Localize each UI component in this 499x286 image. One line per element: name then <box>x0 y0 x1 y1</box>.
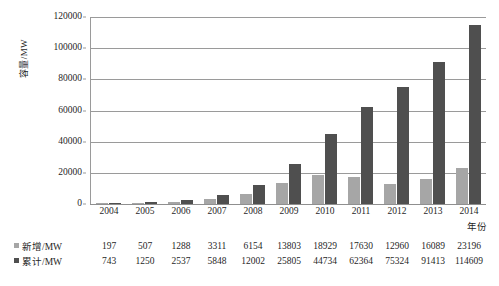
y-axis-tick-labels: 020000400006000080000100000120000 <box>36 17 86 204</box>
table-row: 新增/MW19750712883311615413803189291763012… <box>0 238 499 253</box>
table-row: 累计/MW74312502537584812002258054473462364… <box>0 253 499 268</box>
bar <box>289 164 301 204</box>
y-axis-tick-mark <box>83 141 86 142</box>
legend-label: 累计/MW <box>22 254 62 268</box>
x-axis-tick-label: 2004 <box>91 206 127 216</box>
value-row: 7431250253758481200225805447346236475324… <box>91 256 487 266</box>
x-axis-tick-label: 2008 <box>235 206 271 216</box>
bar <box>325 134 337 204</box>
bar-group <box>271 17 307 204</box>
table-cell: 62364 <box>343 256 379 266</box>
legend-swatch-icon <box>14 258 19 263</box>
table-cell: 1250 <box>127 256 163 266</box>
y-axis-tick-label: 100000 <box>54 43 83 53</box>
table-cell: 743 <box>91 256 127 266</box>
bar-group <box>342 17 378 204</box>
x-axis-line <box>90 204 486 205</box>
bar <box>456 168 468 204</box>
bar <box>361 107 373 204</box>
y-axis-tick-mark <box>83 17 86 18</box>
bar-group <box>163 17 199 204</box>
bar-group <box>235 17 271 204</box>
bar <box>384 184 396 204</box>
bar <box>145 202 157 204</box>
x-axis-tick-label: 2011 <box>343 206 379 216</box>
y-axis-tick-mark <box>83 204 86 205</box>
data-table: 新增/MW19750712883311615413803189291763012… <box>0 238 499 268</box>
x-axis-tick-labels: 2004200520062007200820092010201120122013… <box>91 206 487 216</box>
table-cell: 44734 <box>307 256 343 266</box>
bar <box>469 25 481 204</box>
table-cell: 114609 <box>451 256 487 266</box>
bar <box>348 177 360 204</box>
legend-item[interactable]: 累计/MW <box>0 254 91 268</box>
table-cell: 197 <box>91 241 127 251</box>
bar <box>433 62 445 204</box>
x-axis-tick-label: 2007 <box>199 206 235 216</box>
bar <box>96 203 108 204</box>
table-cell: 2537 <box>163 256 199 266</box>
table-cell: 13803 <box>271 241 307 251</box>
bar-group <box>91 17 127 204</box>
bar <box>253 185 265 204</box>
table-cell: 12002 <box>235 256 271 266</box>
y-axis-tick-mark <box>83 48 86 49</box>
y-axis-tick-label: 40000 <box>58 137 82 147</box>
legend-item[interactable]: 新增/MW <box>0 239 91 253</box>
x-axis-tick-label: 2010 <box>307 206 343 216</box>
y-axis-title: 容量/MW <box>17 22 30 96</box>
bar <box>420 179 432 204</box>
legend-label: 新增/MW <box>22 239 62 253</box>
y-axis-tick-label: 20000 <box>58 168 82 178</box>
y-axis-tick-mark <box>83 79 86 80</box>
table-cell: 3311 <box>199 241 235 251</box>
bar <box>109 203 121 204</box>
x-axis-title: 年份 <box>467 219 487 233</box>
table-cell: 6154 <box>235 241 271 251</box>
bar-groups <box>91 17 486 204</box>
y-axis-tick-label: 80000 <box>58 75 82 85</box>
bar-group <box>450 17 486 204</box>
table-cell: 507 <box>127 241 163 251</box>
bar <box>397 87 409 204</box>
x-axis-tick-label: 2012 <box>379 206 415 216</box>
bar <box>181 200 193 204</box>
y-axis-tick-label: 120000 <box>54 12 83 22</box>
x-axis-tick-label: 2013 <box>415 206 451 216</box>
table-cell: 12960 <box>379 241 415 251</box>
value-row: 1975071288331161541380318929176301296016… <box>91 241 487 251</box>
bar <box>168 202 180 204</box>
legend-swatch-icon <box>14 243 19 248</box>
bar <box>132 203 144 204</box>
x-axis-tick-label: 2014 <box>451 206 487 216</box>
table-cell: 1288 <box>163 241 199 251</box>
bar <box>240 194 252 204</box>
bar-group <box>199 17 235 204</box>
x-axis-tick-label: 2006 <box>163 206 199 216</box>
table-cell: 18929 <box>307 241 343 251</box>
y-axis-tick-label: 0 <box>77 199 82 209</box>
table-cell: 16089 <box>415 241 451 251</box>
plot-area <box>90 17 486 204</box>
table-cell: 5848 <box>199 256 235 266</box>
table-cell: 91413 <box>415 256 451 266</box>
bar-group <box>378 17 414 204</box>
bar-group <box>414 17 450 204</box>
capacity-bar-chart: 容量/MW 020000400006000080000100000120000 … <box>0 0 499 286</box>
y-axis-tick-mark <box>83 172 86 173</box>
x-axis-tick-label: 2009 <box>271 206 307 216</box>
bar <box>312 175 324 204</box>
table-cell: 17630 <box>343 241 379 251</box>
table-cell: 23196 <box>451 241 487 251</box>
table-cell: 75324 <box>379 256 415 266</box>
bar-group <box>306 17 342 204</box>
bar <box>217 195 229 204</box>
y-axis-tick-mark <box>83 110 86 111</box>
bar <box>204 199 216 204</box>
bar <box>276 183 288 205</box>
table-cell: 25805 <box>271 256 307 266</box>
x-axis-tick-label: 2005 <box>127 206 163 216</box>
bar-group <box>127 17 163 204</box>
y-axis-tick-label: 60000 <box>58 106 82 116</box>
